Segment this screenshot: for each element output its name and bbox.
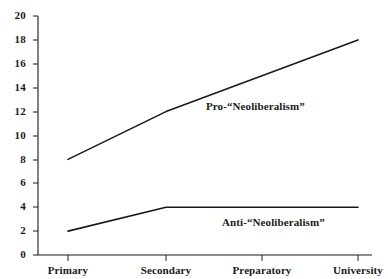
y-axis-ticks [33, 16, 38, 255]
y-tick-label-0: 0 [4, 249, 26, 260]
y-tick-label-6: 6 [4, 177, 26, 188]
y-tick-label-8: 8 [4, 154, 26, 165]
series-label-pro-neoliberalism: Pro-“Neoliberalism” [206, 100, 305, 112]
y-tick-label-20: 20 [4, 10, 26, 21]
x-axis-ticks [68, 255, 358, 261]
y-tick-label-18: 18 [4, 34, 26, 45]
y-tick-label-10: 10 [4, 130, 26, 141]
y-tick-label-12: 12 [4, 106, 26, 117]
x-tick-label-university: University [310, 264, 388, 276]
y-tick-label-16: 16 [4, 58, 26, 69]
x-tick-label-preparatory: Preparatory [214, 264, 310, 276]
x-tick-label-secondary: Secondary [118, 264, 214, 276]
x-tick-label-primary: Primary [20, 264, 116, 276]
y-tick-label-4: 4 [4, 201, 26, 212]
y-tick-label-2: 2 [4, 225, 26, 236]
series-label-anti-neoliberalism: Anti-“Neoliberalism” [222, 216, 325, 228]
y-tick-label-14: 14 [4, 82, 26, 93]
